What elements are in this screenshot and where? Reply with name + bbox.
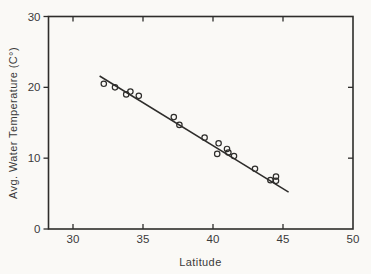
data-point — [216, 141, 221, 146]
scatter-figure: 30354045500102030 Avg. Water Temperature… — [0, 0, 371, 274]
data-point — [128, 89, 133, 94]
data-point — [101, 81, 106, 86]
y-axis-label: Avg. Water Temperature (C°) — [7, 47, 19, 199]
x-tick-label: 40 — [207, 233, 220, 245]
data-point — [202, 135, 207, 140]
plot-frame — [49, 17, 354, 230]
x-axis-label: Latitude — [48, 256, 353, 268]
data-point — [215, 151, 220, 156]
y-tick-label: 20 — [28, 81, 41, 93]
data-point — [171, 114, 176, 119]
x-tick-label: 45 — [277, 233, 290, 245]
data-point — [136, 93, 141, 98]
y-tick-label: 0 — [34, 223, 40, 235]
y-tick-label: 30 — [28, 11, 41, 23]
y-tick-label: 10 — [28, 152, 41, 164]
scatter-plot: 30354045500102030 — [0, 0, 371, 274]
x-tick-label: 35 — [137, 233, 150, 245]
x-tick-label: 30 — [67, 233, 80, 245]
x-tick-label: 50 — [347, 233, 360, 245]
